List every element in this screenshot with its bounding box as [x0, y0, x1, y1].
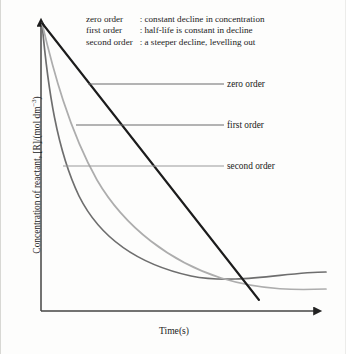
note-row-second-order: second order : a steeper decline, levell…: [86, 37, 264, 48]
x-axis-label: Time(s): [1, 325, 346, 336]
note-separator-zero: :: [140, 14, 143, 24]
y-axis-label-exponent: −3: [30, 100, 37, 107]
note-description-second-order: : a steeper decline, levelling out: [140, 37, 265, 48]
note-separator-second: :: [140, 37, 143, 47]
note-term-second-order: second order: [86, 37, 140, 48]
note-text-first: half-life is constant in decline: [145, 25, 253, 35]
note-text-second: a steeper decline, levelling out: [145, 37, 256, 47]
chart-plot-area: [1, 0, 346, 354]
note-row-zero-order: zero order : constant decline in concent…: [86, 14, 264, 25]
callout-label-zero-order: zero order: [227, 79, 265, 89]
y-axis-label-text: Concentration of reactant, [R]/(mol dm: [32, 107, 42, 254]
note-row-first-order: first order : half-life is constant in d…: [86, 25, 264, 36]
callout-label-second-order: second order: [227, 161, 275, 171]
note-description-zero-order: : constant decline in concentration: [140, 14, 265, 25]
note-description-first-order: : half-life is constant in decline: [140, 25, 265, 36]
note-text-zero: constant decline in concentration: [145, 14, 265, 24]
note-term-first-order: first order: [86, 25, 140, 36]
series-curve-second-order: [42, 23, 326, 279]
series-curve-first-order: [42, 23, 326, 290]
callout-label-first-order: first order: [227, 120, 264, 130]
order-notes-table: zero order : constant decline in concent…: [86, 14, 264, 48]
note-separator-first: :: [140, 25, 143, 35]
y-axis-label-suffix: ): [32, 96, 42, 99]
y-axis-label: Concentration of reactant, [R]/(mol dm−3…: [32, 65, 42, 285]
note-term-zero-order: zero order: [86, 14, 140, 25]
chart-figure: zero order : constant decline in concent…: [0, 0, 346, 354]
